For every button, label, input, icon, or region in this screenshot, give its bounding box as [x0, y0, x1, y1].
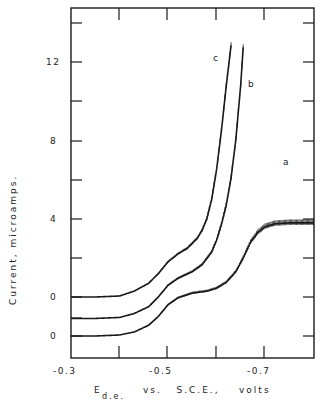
curve-c-oscillations — [126, 42, 231, 294]
plot-frame — [71, 8, 314, 358]
curve-a-oscillations — [129, 219, 313, 333]
y-tick-label-8: 8 — [50, 136, 57, 146]
x-tick-label-0.3: -0.3 — [53, 366, 77, 376]
x-tick-label-0.7: -0.7 — [247, 366, 271, 376]
x-axis-top-ticks — [119, 8, 264, 20]
y-tick-label-4: 4 — [50, 214, 57, 224]
y-tick-label-0-lower: 0 — [50, 331, 57, 341]
curve-b — [71, 47, 243, 318]
curves-group — [71, 42, 314, 336]
x-axis-title-main: E — [94, 385, 102, 395]
x-tick-label-0.5: -0.5 — [149, 366, 173, 376]
y-axis-ticks — [71, 23, 82, 336]
curve-label-c: c — [213, 53, 218, 63]
y-axis-title: Current, microamps. — [8, 175, 18, 305]
y-axis-right-ticks — [303, 23, 314, 336]
curve-label-b: b — [248, 79, 254, 89]
polarogram-chart: 12 8 4 0 0 -0.3 -0.5 -0.7 Current, micro… — [0, 0, 322, 406]
x-axis-title-rest: vs. S.C.E., volts — [143, 385, 271, 395]
y-tick-label-0-upper: 0 — [50, 292, 57, 302]
curve-a — [71, 223, 314, 336]
x-axis-ticks — [119, 346, 264, 358]
y-tick-label-12: 12 — [46, 57, 60, 67]
x-axis-title-subscript: d.e. — [102, 392, 125, 401]
curve-label-a: a — [283, 157, 289, 167]
